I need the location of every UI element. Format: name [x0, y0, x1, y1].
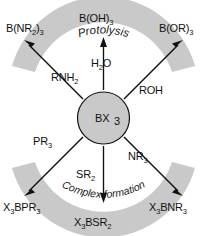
center-node-label: BX — [95, 112, 110, 124]
reagent-lower-right-main: NR — [128, 150, 144, 162]
reagent-lower-left-main: PR — [33, 135, 48, 147]
svg-text:ROH: ROH — [139, 84, 163, 96]
protolysis-label-group: Protolysis — [76, 24, 131, 40]
center-node-sub: 3 — [114, 115, 120, 127]
reagent-upper-center-tail: O — [103, 57, 112, 69]
reagent-upper-right-main: ROH — [139, 84, 163, 96]
reagent-upper-left: RNH2 — [51, 71, 78, 86]
reagent-lower-left: PR3 — [33, 135, 52, 150]
reagent-lower-right: NR3 — [128, 150, 148, 165]
reagent-lower-right-sub: 3 — [144, 156, 148, 165]
svg-text:X3BPR3: X3BPR3 — [3, 201, 40, 216]
reagent-upper-right: ROH — [139, 84, 163, 96]
product-bottom-left-s1: 3 — [36, 207, 40, 216]
svg-text:SR2: SR2 — [76, 168, 95, 183]
reaction-scheme-figure: BX 3 Protolysis Complex formation B(NR2)… — [0, 0, 207, 236]
product-top-right-p1: B(OR) — [159, 22, 189, 34]
product-top-center-p1: B(OH) — [79, 12, 109, 24]
product-bottom-center-p1: BSR — [85, 216, 107, 228]
reagent-lower-left-sub: 3 — [48, 141, 52, 150]
product-top-center-s1: 3 — [109, 18, 113, 27]
product-bottom-right-p1: BNR — [160, 201, 183, 213]
product-top-left-p1: B(NR — [6, 22, 32, 34]
product-top-left-s2: 3 — [40, 28, 44, 37]
reagent-lower-center: SR2 — [76, 168, 95, 183]
reagent-upper-left-main: RNH — [51, 71, 74, 83]
center-node-bx3: BX 3 — [78, 92, 130, 144]
product-bottom-right-s1: 3 — [183, 207, 187, 216]
product-bottom-center-s1: 2 — [107, 222, 111, 231]
product-bottom-left: X3BPR3 — [3, 201, 40, 216]
svg-text:PR3: PR3 — [33, 135, 52, 150]
svg-text:RNH2: RNH2 — [51, 71, 78, 86]
reagent-upper-center: H2O — [91, 57, 112, 72]
svg-text:NR3: NR3 — [128, 150, 148, 165]
product-bottom-left-p1: BPR — [14, 201, 36, 213]
svg-text:H2O: H2O — [91, 57, 112, 72]
reagent-lower-center-sub: 2 — [91, 174, 95, 183]
arrowhead-up — [100, 37, 107, 47]
protolysis-label: Protolysis — [76, 24, 131, 40]
reagent-lower-center-main: SR — [76, 168, 91, 180]
product-top-right-s1: 3 — [189, 28, 193, 37]
reagent-upper-left-sub: 2 — [74, 77, 78, 86]
